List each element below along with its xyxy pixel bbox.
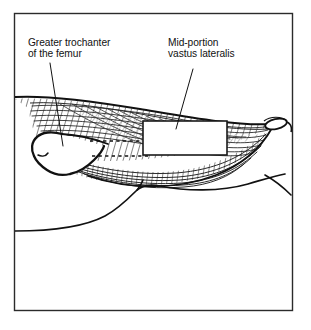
injection-site-rectangle[interactable] (143, 121, 227, 155)
label-vastus-lateralis-line1: Mid-portion (168, 37, 218, 48)
figure-container: Greater trochanter of the femur Mid-port… (0, 0, 311, 330)
anatomical-illustration: Greater trochanter of the femur Mid-port… (0, 0, 311, 330)
label-greater-trochanter-line1: Greater trochanter (28, 37, 111, 48)
label-greater-trochanter-line2: of the femur (28, 48, 82, 59)
label-vastus-lateralis-line2: vastus lateralis (168, 48, 235, 59)
